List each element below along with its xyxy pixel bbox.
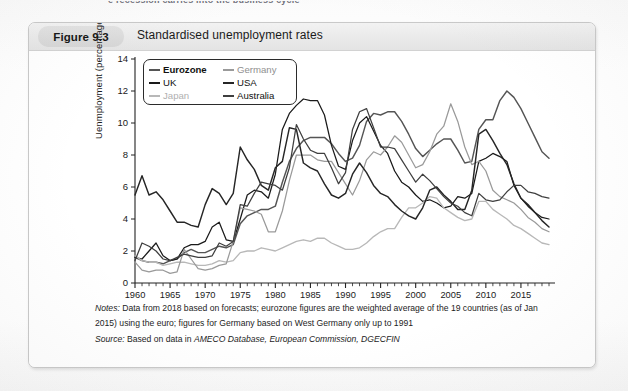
y-tick-label: 2 (123, 245, 128, 256)
y-tick-label: 4 (123, 213, 128, 224)
notes-text-2: 2015) using the euro; figures for German… (95, 318, 565, 330)
x-tick-label: 1985 (300, 290, 321, 300)
figure-notes: Notes: Data from 2018 based on forecasts… (95, 303, 565, 349)
chart-legend: EurozoneGermanyUKUSAJapanAustralia (143, 59, 297, 105)
legend-label: Australia (237, 91, 274, 101)
x-tick-label: 2015 (511, 290, 532, 300)
x-tick-label: 1960 (125, 290, 146, 300)
y-tick-label: 8 (123, 149, 128, 160)
legend-swatch-icon (149, 82, 160, 84)
notes-line: Notes: Data from 2018 based on forecasts… (95, 303, 565, 315)
notes-label: Notes: (95, 303, 120, 313)
source-text: Based on data in (127, 334, 194, 344)
y-tick-label: 10 (117, 117, 128, 128)
legend-item-eurozone: Eurozone (149, 65, 223, 75)
legend-swatch-icon (149, 95, 160, 97)
series-line-japan (135, 197, 549, 266)
figure-body: Uenmployment (percentage of workforce) 0… (29, 51, 595, 367)
x-tick-label: 1990 (335, 290, 356, 300)
legend-label: USA (237, 78, 257, 88)
x-tick-label: 1975 (230, 290, 251, 300)
figure-title: Standardised unemployment rates (137, 28, 323, 42)
figure-number-badge: Figure 9.3 (38, 26, 124, 47)
x-tick-label: 2010 (476, 290, 497, 300)
y-tick-label: 12 (117, 85, 128, 96)
y-tick-label: 0 (123, 277, 128, 288)
legend-item-germany: Germany (223, 65, 297, 75)
legend-swatch-icon (223, 82, 234, 84)
legend-swatch-icon (223, 95, 234, 97)
x-tick-label: 2005 (440, 290, 461, 300)
source-line: Source: Based on data in AMECO Database,… (95, 334, 565, 346)
series-line-uk (135, 99, 549, 261)
legend-label: Japan (163, 91, 189, 101)
source-citation: AMECO Database, European Commission, DGE… (194, 334, 400, 344)
x-tick-label: 2000 (405, 290, 426, 300)
line-chart-svg: 0246810121419601965197019751980198519901… (29, 51, 595, 303)
cut-off-header-text: e recession carries into the business cy… (108, 1, 460, 10)
chart-area: Uenmployment (percentage of workforce) 0… (29, 51, 595, 303)
y-tick-label: 6 (123, 181, 128, 192)
legend-swatch-icon (223, 69, 234, 71)
legend-swatch-icon (149, 69, 160, 71)
notes-text-1: Data from 2018 based on forecasts; euroz… (122, 303, 538, 313)
x-tick-label: 1995 (370, 290, 391, 300)
x-tick-label: 1980 (265, 290, 286, 300)
legend-item-australia: Australia (223, 91, 297, 101)
legend-label: Germany (237, 65, 276, 75)
figure-container: Figure 9.3 Standardised unemployment rat… (28, 22, 596, 368)
legend-item-japan: Japan (149, 91, 223, 101)
x-tick-label: 1965 (160, 290, 181, 300)
legend-item-uk: UK (149, 78, 223, 88)
legend-item-usa: USA (223, 78, 297, 88)
legend-label: UK (163, 78, 176, 88)
figure-header: Figure 9.3 Standardised unemployment rat… (29, 23, 595, 51)
y-tick-label: 14 (117, 53, 128, 64)
x-tick-label: 1970 (195, 290, 216, 300)
legend-label: Eurozone (163, 65, 207, 75)
source-label: Source: (95, 334, 125, 344)
